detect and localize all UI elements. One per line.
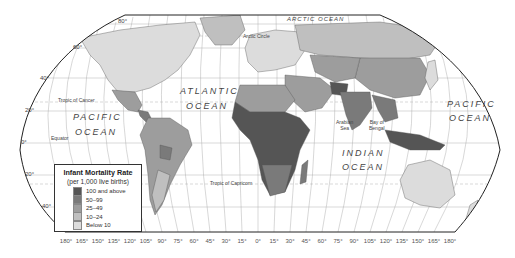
lon-label: 30° <box>285 238 294 244</box>
lon-label: 0° <box>255 238 261 244</box>
legend-item-10-24: 10–24 <box>73 213 141 222</box>
mexico <box>112 90 142 112</box>
label-arabian-sea: ArabianSea <box>336 119 353 131</box>
legend-item-100-above: 100 and above <box>73 187 141 196</box>
lat-label-80n: 80° <box>118 18 127 24</box>
legend-item-25-49: 25–49 <box>73 204 141 213</box>
lon-label: 75° <box>173 238 182 244</box>
lon-label: 45° <box>301 238 310 244</box>
label-tropic-of-capricorn: Tropic of Capricorn <box>210 180 252 186</box>
lon-label: 120° <box>380 238 392 244</box>
ocean-label-pacific-west-line2: OCEAN <box>75 127 117 137</box>
ocean-label-pacific-east: PACIFIC <box>447 99 496 109</box>
greenland <box>200 15 245 45</box>
label-equator: Equator <box>51 135 69 141</box>
legend-title: Infant Mortality Rate <box>55 168 141 177</box>
ocean-label-atlantic: ATLANTIC <box>180 86 239 96</box>
south-america <box>140 118 192 215</box>
lat-label-60n: 60° <box>73 44 82 50</box>
indonesia <box>385 130 445 150</box>
ocean-label-atlantic-line2: OCEAN <box>186 101 228 111</box>
label-bay-of-bengal: Bay ofBengal <box>369 119 385 131</box>
legend-item-50-99: 50–99 <box>73 196 141 205</box>
lon-label: 15° <box>237 238 246 244</box>
ocean-label-arctic: ARCTIC OCEAN <box>287 16 344 22</box>
lon-label: 165° <box>428 238 440 244</box>
lon-label: 90° <box>157 238 166 244</box>
southern-africa <box>262 165 292 196</box>
ocean-label-indian-line2: OCEAN <box>342 162 384 172</box>
lon-label: 45° <box>205 238 214 244</box>
lon-label: 165° <box>76 238 88 244</box>
label-tropic-of-cancer: Tropic of Cancer <box>58 97 95 103</box>
lat-label-20s: 20° <box>25 171 34 177</box>
lat-label-0: 0° <box>21 139 27 145</box>
lat-label-20n: 20° <box>25 107 34 113</box>
lon-label: 75° <box>333 238 342 244</box>
lon-label: 105° <box>364 238 376 244</box>
lon-label: 30° <box>221 238 230 244</box>
lon-label: 15° <box>269 238 278 244</box>
label-arctic-circle: Arctic Circle <box>243 33 270 39</box>
legend-subtitle: (per 1,000 live births) <box>55 178 141 185</box>
madagascar <box>300 160 308 184</box>
ocean-label-pacific-east-line2: OCEAN <box>449 113 491 123</box>
lon-label: 60° <box>189 238 198 244</box>
russia <box>295 22 440 60</box>
north-america <box>80 22 200 92</box>
lon-label: 150° <box>412 238 424 244</box>
lat-label-40s: 40° <box>42 203 51 209</box>
lat-label-40n: 40° <box>40 75 49 81</box>
lon-label: 180° <box>60 238 72 244</box>
lon-label: 135° <box>396 238 408 244</box>
lon-label: 180° <box>444 238 456 244</box>
ocean-label-indian: INDIAN <box>342 148 385 158</box>
lon-label: 90° <box>349 238 358 244</box>
longitude-labels: 180° 165° 150° 135° 120° 105° 90° 75° 60… <box>0 238 515 248</box>
lon-label: 150° <box>92 238 104 244</box>
japan <box>425 60 438 90</box>
australia <box>400 160 455 208</box>
legend-item-below-10: Below 10 <box>73 221 141 230</box>
lon-label: 135° <box>108 238 120 244</box>
swatch-icon <box>73 221 82 230</box>
middle-east <box>285 75 335 112</box>
ocean-label-pacific-west: PACIFIC <box>73 112 122 122</box>
legend: Infant Mortality Rate (per 1,000 live bi… <box>54 164 142 232</box>
lon-label: 60° <box>317 238 326 244</box>
lon-label: 105° <box>140 238 152 244</box>
lon-label: 120° <box>124 238 136 244</box>
southeast-asia <box>372 95 398 122</box>
